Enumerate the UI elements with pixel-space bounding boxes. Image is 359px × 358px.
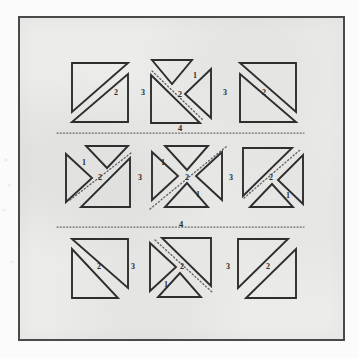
label-r1c1-3: 3 [141,89,145,97]
scanned-page: .ink { fill:none; stroke:#2e2e2e; stroke… [0,0,359,358]
label-r2c1-3: 3 [138,174,142,182]
label-r2c2-2: 2 [185,174,189,182]
block-middle-right [243,148,303,207]
label-r3c2-2: 2 [180,263,184,271]
label-r1c3-2: 2 [262,89,266,97]
label-r3c2-3: 3 [226,263,230,271]
label-r2c1-2: 2 [98,174,102,182]
label-r2c2-1b: 1 [196,191,200,199]
label-r2c2-3: 3 [229,174,233,182]
label-r1c2-1: 1 [193,72,197,80]
block-top-left [72,63,128,122]
label-r3c2-1: 1 [164,281,168,289]
label-r2c3-2: 2 [269,174,273,182]
label-separator-bottom: 4 [179,220,183,229]
label-r3c1-2: 2 [97,263,101,271]
label-r1c1-2: 2 [114,89,118,97]
label-r3c1-3: 3 [131,263,135,271]
block-top-right [240,63,296,122]
label-r2c3-1: 1 [286,192,290,200]
diagram-artwork: .ink { fill:none; stroke:#2e2e2e; stroke… [0,0,359,358]
label-r1c2-3: 3 [223,89,227,97]
label-r3c3-2: 2 [266,263,270,271]
label-r2c2-1: 1 [161,159,165,167]
label-r2c1-1: 1 [82,159,86,167]
label-separator-top: 4 [178,124,182,133]
label-r1c2-2: 2 [178,91,182,99]
